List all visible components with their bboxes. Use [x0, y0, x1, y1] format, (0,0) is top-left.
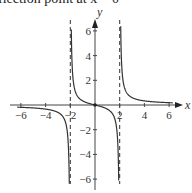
curve-branch	[121, 26, 173, 103]
y-axis-label: y	[96, 5, 103, 19]
y-tick-label: 2	[86, 74, 92, 86]
x-tick-label: 2	[117, 109, 123, 121]
x-axis-label: x	[184, 98, 191, 112]
function-graph: xy −6−4−2246−6−4−2246	[0, 0, 192, 193]
x-tick-label: −6	[15, 109, 27, 121]
y-axis-arrow-icon	[92, 19, 98, 28]
axes: xy	[10, 5, 191, 190]
y-tick-label: −6	[79, 173, 91, 185]
inflection-point	[93, 103, 97, 107]
x-tick-label: −2	[64, 109, 76, 121]
y-tick-label: −2	[79, 124, 91, 136]
y-tick-label: 6	[86, 25, 92, 37]
x-axis-arrow-icon	[175, 102, 183, 108]
x-tick-label: 6	[166, 109, 172, 121]
x-tick-label: 4	[142, 109, 148, 121]
y-tick-label: −4	[79, 148, 91, 160]
y-tick-label: 4	[86, 50, 92, 62]
x-tick-label: −4	[40, 109, 52, 121]
